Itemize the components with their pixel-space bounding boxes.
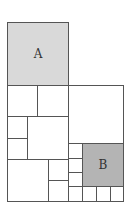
square-tile [83,187,97,202]
square-tile [69,173,83,187]
square-tile [8,160,49,202]
square-tile [69,187,83,202]
square-tile [8,86,38,117]
square-tile [69,86,124,144]
square-tile [8,139,28,160]
square-tile [69,159,83,173]
square-tile [49,181,69,202]
square-tiles [8,23,124,202]
square-label-b: B [99,158,108,172]
square-tile [69,144,83,159]
square-label-a: A [33,47,43,61]
square-tile [97,187,111,202]
square-tile [49,160,69,181]
square-tile [111,187,124,202]
square-tile [8,117,28,139]
square-tile [28,117,69,160]
square-tile [38,86,69,117]
squared-rectangle-diagram: A B [0,0,132,216]
